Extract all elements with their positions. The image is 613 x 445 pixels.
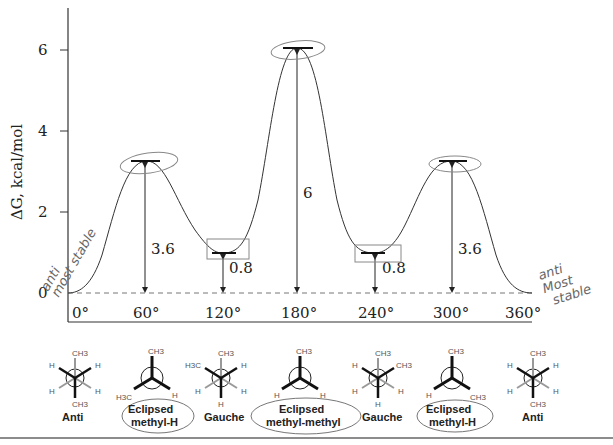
svg-text:H: H [426, 391, 432, 400]
y-tick-4: 4 [38, 122, 48, 140]
x-tick-300: 300° [433, 304, 469, 322]
newman-gauche-2: CH3 H CH3 H H H [352, 349, 413, 409]
svg-text:H: H [553, 361, 559, 370]
svg-text:H: H [241, 387, 247, 396]
svg-text:CH3: CH3 [396, 361, 413, 370]
annotation-180: 6 [303, 184, 313, 202]
label-anti-2: Anti [522, 411, 543, 423]
svg-text:H: H [352, 361, 358, 370]
svg-text:CH3: CH3 [72, 400, 89, 409]
annotation-120: 0.8 [229, 259, 253, 277]
svg-text:H: H [95, 361, 101, 370]
x-tick-60: 60° [133, 304, 160, 322]
svg-text:H: H [507, 387, 513, 396]
y-axis-label: ΔG, kcal/mol [8, 124, 26, 220]
label-eclipsed-mm-line2: methyl-methyl [266, 416, 341, 428]
label-eclipsed-2-line2: methyl-H [429, 416, 476, 428]
svg-text:CH3: CH3 [296, 347, 313, 356]
svg-text:H: H [398, 387, 404, 396]
energy-arrows [145, 52, 452, 290]
svg-text:H: H [274, 391, 280, 400]
svg-text:H: H [195, 387, 201, 396]
label-eclipsed-2-line1: Eclipsed [426, 403, 471, 415]
x-tick-360: 360° [505, 304, 541, 322]
newman-eclipsed-methyl-methyl: CH3 H H [274, 347, 326, 400]
svg-text:CH3: CH3 [448, 347, 465, 356]
svg-text:H: H [172, 391, 178, 400]
svg-text:H: H [95, 387, 101, 396]
annotation-60: 3.6 [151, 240, 175, 258]
y-ticks: 0 2 4 6 [38, 41, 68, 302]
svg-text:CH3: CH3 [72, 349, 89, 358]
x-tick-180: 180° [281, 304, 317, 322]
energy-diagram: 0 2 4 6 ΔG, kcal/mol 0° 60° 120° 180° 24… [0, 0, 613, 445]
svg-text:most stable: most stable [48, 226, 99, 300]
label-gauche-2: Gauche [362, 411, 402, 423]
x-tick-120: 120° [205, 304, 241, 322]
x-ticks: 0° 60° 120° 180° 240° 300° 360° [72, 304, 541, 322]
svg-text:H: H [49, 361, 55, 370]
svg-text:H: H [375, 400, 381, 409]
svg-text:H: H [218, 400, 224, 409]
newman-eclipsed-methyl-h-1: CH3 H3C H [116, 347, 178, 402]
svg-text:CH3: CH3 [375, 349, 392, 358]
svg-text:H: H [241, 361, 247, 370]
svg-text:CH3: CH3 [148, 347, 165, 356]
svg-text:H3C: H3C [116, 393, 132, 402]
svg-text:CH3: CH3 [470, 393, 487, 402]
label-gauche-1: Gauche [204, 411, 244, 423]
x-tick-240: 240° [358, 304, 394, 322]
svg-text:H: H [507, 361, 513, 370]
svg-text:H: H [553, 387, 559, 396]
x-tick-0: 0° [72, 304, 89, 322]
svg-text:CH3: CH3 [530, 349, 547, 358]
peak-markers [131, 48, 467, 253]
label-eclipsed-1-line2: methyl-H [131, 416, 178, 428]
svg-text:H: H [49, 387, 55, 396]
svg-text:CH3: CH3 [530, 400, 547, 409]
label-anti-1: Anti [62, 411, 83, 423]
label-eclipsed-1-line1: Eclipsed [128, 403, 173, 415]
y-tick-6: 6 [38, 41, 48, 59]
hand-markings [119, 38, 481, 262]
svg-text:H3C: H3C [185, 361, 201, 370]
newman-anti-2: CH3 CH3 H H H H [507, 349, 559, 409]
label-eclipsed-mm-line1: Eclipsed [279, 403, 324, 415]
svg-text:H: H [352, 387, 358, 396]
y-tick-2: 2 [38, 203, 48, 221]
handwritten-right: anti Most stable [536, 254, 593, 309]
newman-gauche-1: CH3 H3C H H H H [185, 349, 247, 409]
newman-anti-1: CH3 CH3 H H H H [49, 349, 101, 409]
annotation-300: 3.6 [458, 240, 482, 258]
svg-text:CH3: CH3 [218, 349, 235, 358]
newman-eclipsed-methyl-h-2: CH3 H CH3 [426, 347, 487, 402]
